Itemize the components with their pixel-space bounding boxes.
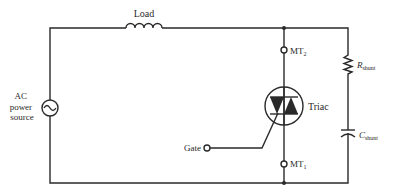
mt2-label: MT2 [290, 46, 307, 57]
triac-icon [210, 87, 303, 148]
ac-source-icon [42, 100, 58, 116]
triac-label: Triac [308, 101, 329, 112]
mt1-terminal [281, 161, 287, 167]
load-label: Load [134, 8, 155, 19]
gate-terminal [204, 145, 210, 151]
gate-label: Gate [184, 143, 201, 153]
capacitor-icon [341, 130, 355, 137]
ac-source-label: AC power source [10, 91, 35, 122]
junction-dot-top [282, 26, 286, 30]
inductor-icon [126, 24, 162, 29]
mt1-label: MT1 [290, 159, 307, 170]
resistor-icon [344, 52, 352, 76]
mt2-terminal [281, 47, 287, 53]
junction-dot-bottom [282, 181, 286, 185]
wire-top-right [162, 28, 348, 52]
r-shunt-label: Rshunt [356, 60, 376, 71]
c-shunt-label: Cshunt [359, 130, 378, 141]
wire-left-top [50, 28, 126, 100]
circuit-diagram: Load AC power source MT2 Triac Gate MT1 … [0, 0, 395, 196]
